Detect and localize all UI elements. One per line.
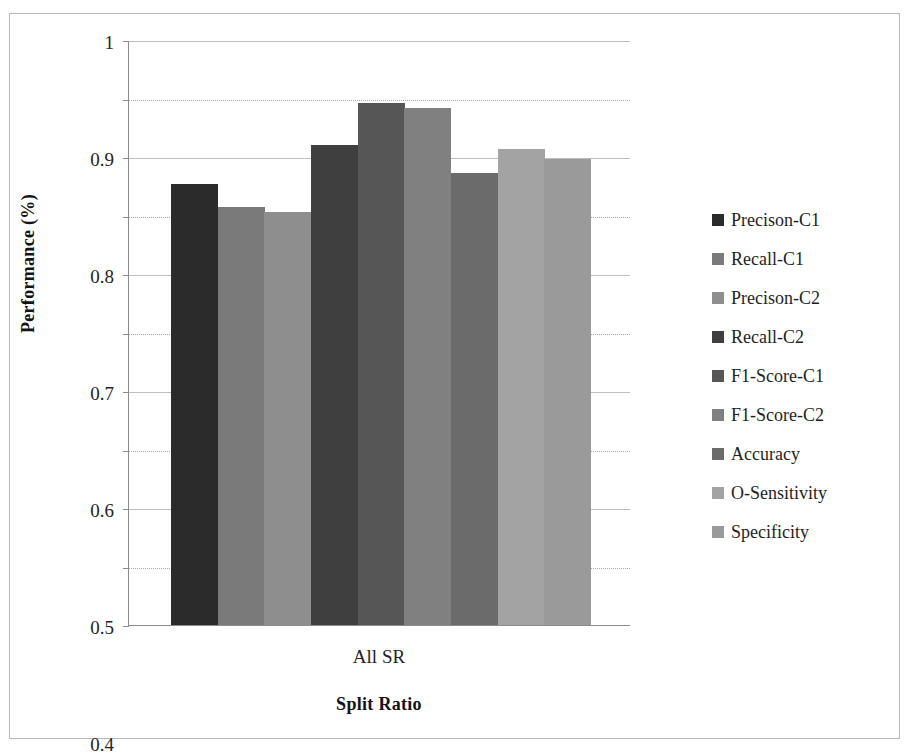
legend-item-f1-score-c1[interactable]: F1-Score-C1 — [712, 356, 902, 395]
legend-item-specificity[interactable]: Specificity — [712, 512, 902, 551]
bar-f1-score-c2 — [404, 108, 451, 625]
y-axis-title: Performance (%) — [18, 194, 39, 333]
plot-area: 10.90.80.70.60.50.40.30.20.10 — [128, 41, 630, 626]
y-axis-tick-label: 0.9 — [90, 150, 114, 169]
legend-item-precison-c1[interactable]: Precison-C1 — [712, 200, 902, 239]
legend-item-recall-c2[interactable]: Recall-C2 — [712, 317, 902, 356]
legend-swatch-icon — [712, 448, 724, 460]
bar-accuracy — [451, 173, 498, 625]
legend-swatch-icon — [712, 253, 724, 265]
bar-precison-c1 — [171, 184, 218, 625]
y-axis-tick-label: 0.8 — [90, 267, 114, 286]
chart-legend: Precison-C1Recall-C1Precison-C2Recall-C2… — [712, 200, 902, 551]
bar-recall-c1 — [218, 207, 265, 625]
legend-item-f1-score-c2[interactable]: F1-Score-C2 — [712, 395, 902, 434]
bar-precison-c2 — [264, 212, 311, 625]
legend-label: F1-Score-C1 — [731, 367, 824, 385]
y-axis-tick-label: 0.5 — [90, 618, 114, 637]
legend-item-o-sensitivity[interactable]: O-Sensitivity — [712, 473, 902, 512]
y-axis-tick-label: 0.7 — [90, 384, 114, 403]
legend-swatch-icon — [712, 409, 724, 421]
legend-label: Recall-C2 — [731, 328, 804, 346]
legend-item-precison-c2[interactable]: Precison-C2 — [712, 278, 902, 317]
y-axis-tick-label: 0.4 — [90, 735, 114, 754]
bar-chart: Performance (%) 10.90.80.70.60.50.40.30.… — [0, 0, 911, 755]
legend-item-recall-c1[interactable]: Recall-C1 — [712, 239, 902, 278]
legend-label: Accuracy — [731, 445, 800, 463]
y-axis-tick-label: 0.6 — [90, 501, 114, 520]
legend-label: Precison-C1 — [731, 211, 820, 229]
legend-label: O-Sensitivity — [731, 484, 827, 502]
bar-group — [129, 41, 630, 625]
legend-swatch-icon — [712, 487, 724, 499]
legend-swatch-icon — [712, 331, 724, 343]
y-axis-tick-label: 1 — [105, 33, 115, 52]
bar-specificity — [544, 159, 591, 625]
y-axis-tick: 0 — [123, 626, 129, 627]
legend-swatch-icon — [712, 292, 724, 304]
legend-item-accuracy[interactable]: Accuracy — [712, 434, 902, 473]
legend-label: Specificity — [731, 523, 809, 541]
bar-recall-c2 — [311, 145, 358, 625]
x-axis-title: Split Ratio — [128, 694, 630, 715]
legend-label: Recall-C1 — [731, 250, 804, 268]
legend-swatch-icon — [712, 370, 724, 382]
legend-label: Precison-C2 — [731, 289, 820, 307]
bar-f1-score-c1 — [358, 103, 405, 625]
bar-o-sensitivity — [498, 149, 545, 625]
legend-label: F1-Score-C2 — [731, 406, 824, 424]
x-axis-category-label: All SR — [128, 646, 630, 668]
legend-swatch-icon — [712, 214, 724, 226]
legend-swatch-icon — [712, 526, 724, 538]
